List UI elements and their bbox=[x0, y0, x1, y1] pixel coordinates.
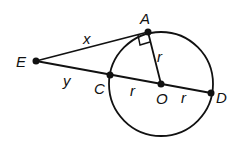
label-O: O bbox=[156, 90, 168, 107]
tangent-segment-EA bbox=[36, 32, 148, 61]
point-A bbox=[145, 29, 152, 36]
label-r-OD: r bbox=[181, 89, 187, 106]
label-r-AO: r bbox=[157, 48, 163, 65]
geometry-diagram: E A C O D x y r r r bbox=[0, 0, 236, 147]
label-y: y bbox=[62, 72, 72, 89]
label-r-CO: r bbox=[130, 82, 136, 99]
label-D: D bbox=[216, 89, 227, 106]
point-O bbox=[158, 81, 165, 88]
point-D bbox=[208, 90, 215, 97]
point-E bbox=[33, 58, 40, 65]
label-C: C bbox=[94, 80, 105, 97]
label-E: E bbox=[16, 53, 27, 70]
point-C bbox=[107, 72, 114, 79]
label-x: x bbox=[82, 30, 91, 47]
label-A: A bbox=[139, 10, 150, 27]
